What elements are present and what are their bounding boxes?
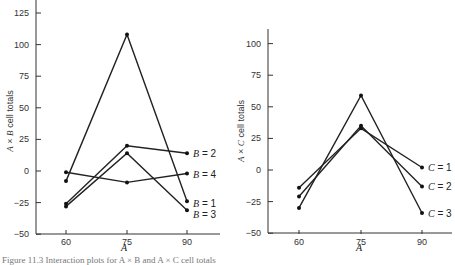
series-c2: C = 2: [297, 124, 452, 199]
data-point: [185, 208, 189, 212]
y-tick-label: 25: [19, 134, 29, 144]
y-tick-label: −25: [246, 197, 261, 207]
series-legend-label: B = 4: [193, 169, 217, 180]
y-tick-label: 50: [251, 102, 261, 112]
left-chart: 1251007550250−25−50 607590 B = 1B = 2B =…: [5, 0, 220, 253]
series-line: [299, 95, 422, 213]
right-chart: 1007550250−25−50 607590 C = 1C = 2C = 3 …: [236, 29, 452, 253]
series-legend-label: B = 3: [193, 209, 217, 220]
data-point: [64, 204, 68, 208]
left-x-axis-label: A: [120, 242, 128, 253]
x-tick-label: 90: [417, 237, 427, 247]
data-point: [420, 211, 424, 215]
left-y-ticks: 1251007550250−25−50: [14, 8, 41, 239]
y-tick-label: 25: [251, 133, 261, 143]
y-tick-label: −25: [14, 198, 29, 208]
series-legend-label: C = 1: [428, 162, 452, 173]
series-c1: C = 1: [297, 126, 452, 189]
y-tick-label: 0: [256, 165, 261, 175]
y-tick-label: 100: [246, 39, 261, 49]
data-point: [185, 151, 189, 155]
data-point: [64, 170, 68, 174]
data-point: [297, 186, 301, 190]
left-series-lines: B = 1B = 2B = 3B = 4: [64, 32, 217, 220]
data-point: [297, 206, 301, 210]
data-point: [185, 172, 189, 176]
data-point: [359, 93, 363, 97]
series-b3: B = 3: [64, 151, 217, 220]
series-legend-label: B = 1: [193, 198, 217, 209]
x-tick-label: 90: [182, 237, 192, 247]
y-tick-label: −50: [14, 229, 29, 239]
data-point: [125, 32, 129, 36]
left-y-axis-label: A × B cell totals: [5, 90, 15, 153]
x-tick-label: 60: [61, 237, 71, 247]
right-y-axis-label: A × C cell totals: [236, 100, 246, 163]
data-point: [297, 195, 301, 199]
right-y-ticks: 1007550250−25−50: [246, 39, 273, 239]
y-tick-label: 75: [19, 71, 29, 81]
x-tick-label: 60: [294, 237, 304, 247]
series-c3: C = 3: [297, 93, 452, 219]
data-point: [125, 180, 129, 184]
data-point: [359, 124, 363, 128]
data-point: [125, 151, 129, 155]
data-point: [185, 199, 189, 203]
y-tick-label: 0: [24, 166, 29, 176]
data-point: [420, 184, 424, 188]
series-legend-label: C = 3: [428, 208, 452, 219]
figure-caption: Figure 11.3 Interaction plots for A × B …: [2, 255, 216, 265]
series-legend-label: C = 2: [428, 181, 452, 192]
y-tick-label: 100: [14, 40, 29, 50]
y-tick-label: −50: [246, 228, 261, 238]
y-tick-label: 75: [251, 70, 261, 80]
series-b1: B = 1: [64, 32, 217, 209]
y-tick-label: 125: [14, 8, 29, 18]
right-series-lines: C = 1C = 2C = 3: [297, 93, 452, 219]
data-point: [125, 144, 129, 148]
series-b4: B = 4: [64, 169, 217, 185]
y-tick-label: 50: [19, 103, 29, 113]
data-point: [420, 165, 424, 169]
data-point: [64, 179, 68, 183]
right-x-axis-label: A: [355, 242, 363, 253]
series-line: [299, 126, 422, 197]
series-legend-label: B = 2: [193, 148, 217, 159]
